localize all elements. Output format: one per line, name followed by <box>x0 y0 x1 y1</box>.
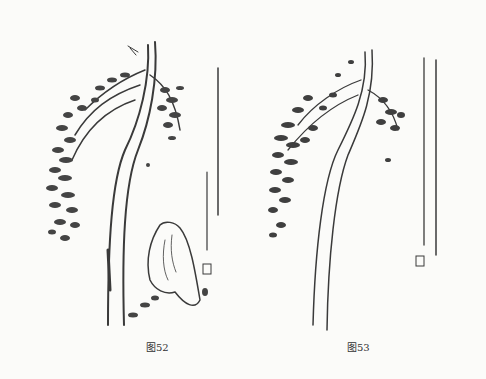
figure-53: 图53 <box>243 0 486 379</box>
willow-branch-drawing-53 <box>243 0 486 379</box>
figure-caption-52: 图52 <box>146 339 169 354</box>
figure-52: 图52 <box>0 0 243 379</box>
willow-branch-drawing-52 <box>0 0 243 379</box>
figure-caption-53: 图53 <box>347 339 370 354</box>
